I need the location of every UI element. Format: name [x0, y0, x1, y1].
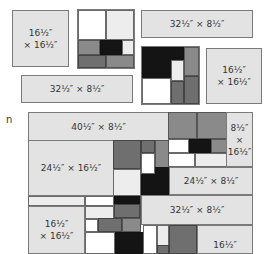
piece-label: 32½″ × 8½″ [50, 83, 105, 95]
block-24x16: 24½″ × 16½″ [28, 140, 114, 196]
patch [28, 196, 85, 206]
square-16x16-bottom-left: 16½″ × 16½″ [28, 206, 85, 254]
piece-label: 24½″ × 16½″ [41, 162, 101, 174]
block-mid-center [141, 46, 200, 105]
patch [114, 204, 140, 218]
stray-text: n [6, 114, 12, 125]
piece-16x16-mid-right: 16½″ × 16½″ [206, 48, 262, 104]
patch [211, 139, 227, 153]
patch [106, 55, 134, 68]
patch [171, 81, 184, 104]
patch [141, 140, 155, 153]
patch [143, 225, 157, 254]
piece-label: 16½″ × 16½″ [217, 64, 251, 88]
patch [114, 196, 142, 204]
piece-label: 32½″ × 8½″ [170, 18, 225, 30]
strip-8x16: 8½″ × 16½″ [226, 112, 253, 167]
patch [115, 232, 143, 254]
strip-24x8: 24½″ × 8½″ [169, 167, 253, 195]
patch [141, 174, 169, 196]
piece-label: 16½″ × 16½″ [40, 218, 74, 242]
patch [113, 140, 141, 169]
patch [78, 40, 100, 55]
piece-label: 8½″ × 16½″ [228, 122, 252, 158]
block-top-middle [77, 9, 135, 69]
patch [141, 153, 155, 174]
patch [155, 167, 169, 175]
patch [142, 78, 171, 104]
patch [85, 232, 115, 254]
square-16x16-bottom-right: 16½″ [197, 225, 253, 254]
piece-label: 40½″ × 8½″ [71, 121, 126, 133]
patch [195, 153, 227, 167]
patch [184, 47, 199, 76]
patch [155, 140, 169, 169]
piece-label: 32½″ × 8½″ [170, 204, 225, 216]
strip-40x8: 40½″ × 8½″ [28, 112, 169, 141]
patch [122, 218, 141, 232]
piece-label: 16½″ [213, 239, 237, 251]
patch [157, 245, 169, 254]
patch [168, 153, 195, 167]
piece-32x8-top-right: 32½″ × 8½″ [141, 10, 253, 38]
patch [169, 225, 197, 254]
patch [184, 76, 199, 104]
patch [122, 40, 134, 55]
strip-32x8: 32½″ × 8½″ [141, 195, 253, 225]
patch [100, 40, 122, 55]
patch [78, 10, 106, 40]
patch [168, 112, 197, 139]
patch [113, 169, 141, 196]
patch [189, 139, 211, 153]
piece-16x16-top-left: 16½″ × 16½″ [12, 10, 69, 67]
piece-32x8-mid-left: 32½″ × 8½″ [21, 75, 133, 103]
patch [197, 112, 227, 139]
piece-label: 16½″ × 16½″ [24, 27, 58, 51]
piece-label: 24½″ × 8½″ [184, 175, 239, 187]
patch [98, 218, 122, 232]
patch [78, 55, 106, 68]
patch [171, 60, 184, 81]
patch [106, 10, 134, 40]
patch [85, 196, 114, 206]
patch [168, 139, 189, 153]
patch [85, 219, 98, 232]
quilt-assembly: 40½″ × 8½″ 8½″ × 16½″ 24½″ × 16½″ 24½″ ×… [28, 112, 253, 254]
